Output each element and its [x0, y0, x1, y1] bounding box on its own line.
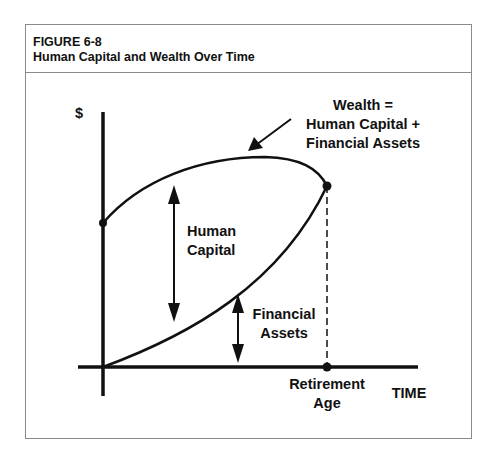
wealth-pointer-arrow: [248, 119, 291, 151]
financial-assets-double-arrow: [232, 294, 244, 363]
retirement-age-label-line-2: Age: [313, 395, 340, 411]
start-human-capital-dot: [99, 219, 107, 227]
y-axis-label: $: [75, 105, 83, 121]
human-capital-label-line-2: Capital: [187, 242, 235, 258]
financial-assets-label-line-1: Financial: [253, 306, 316, 322]
human-capital-label-line-1: Human: [187, 223, 236, 239]
retirement-wealth-dot: [323, 182, 332, 191]
wealth-label-line-1: Wealth =: [333, 97, 393, 113]
diagram-canvas: $ Wealth = Human Capital + Financial Ass…: [0, 0, 493, 463]
wealth-label-line-3: Financial Assets: [306, 135, 420, 151]
human-capital-double-arrow: [168, 185, 180, 322]
retirement-axis-dot: [323, 363, 332, 372]
x-axis-label: TIME: [392, 385, 427, 401]
wealth-curve: [103, 157, 327, 223]
wealth-label-line-2: Human Capital +: [306, 116, 420, 132]
financial-assets-label-line-2: Assets: [260, 325, 308, 341]
retirement-age-label-line-1: Retirement: [289, 376, 365, 392]
